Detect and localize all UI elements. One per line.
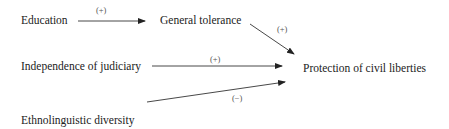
node-ethnolinguistic-diversity: Ethnolinguistic diversity [21,115,134,127]
node-education: Education [21,15,68,27]
sign-diversity-protection: (−) [232,94,242,103]
node-independence-of-judiciary: Independence of judiciary [21,61,141,73]
node-protection-of-civil-liberties: Protection of civil liberties [303,63,426,75]
sign-judiciary-protection: (+) [210,55,220,64]
sign-tolerance-protection: (+) [277,25,287,34]
sign-education-tolerance: (+) [96,6,106,15]
arrow-diversity-to-protection [147,82,285,102]
node-general-tolerance: General tolerance [160,15,241,27]
